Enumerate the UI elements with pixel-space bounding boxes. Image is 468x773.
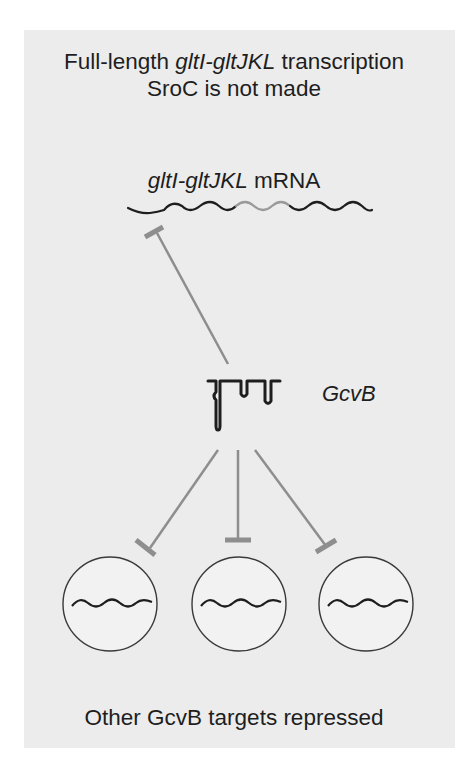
mrna-wave-icon — [128, 202, 372, 213]
gcvb-srna-icon — [208, 381, 280, 430]
targets-caption: Other GcvB targets repressed — [0, 705, 468, 731]
target-mrna-3 — [319, 557, 413, 651]
target-mrna-2 — [192, 557, 286, 651]
inhibition-arrows-targets — [136, 450, 336, 555]
diagram-art — [0, 0, 468, 773]
target-mrna-1 — [63, 557, 157, 651]
inhibition-arrow-mrna — [145, 227, 228, 364]
gcvb-label: GcvB — [322, 381, 376, 407]
